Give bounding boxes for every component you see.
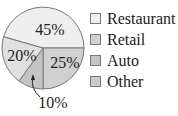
swatch-icon <box>90 55 101 66</box>
legend-item-other: Other <box>90 71 175 92</box>
legend-item-auto: Auto <box>90 50 175 71</box>
legend-item-retail: Retail <box>90 29 175 50</box>
legend: Restaurant Retail Auto Other <box>90 8 175 92</box>
swatch-icon <box>90 76 101 87</box>
swatch-icon <box>90 13 101 24</box>
label-20: 20% <box>7 47 36 64</box>
swatch-icon <box>90 34 101 45</box>
legend-item-restaurant: Restaurant <box>90 8 175 29</box>
label-25: 25% <box>50 54 79 71</box>
label-45: 45% <box>35 21 64 38</box>
label-10: 10% <box>38 94 67 111</box>
